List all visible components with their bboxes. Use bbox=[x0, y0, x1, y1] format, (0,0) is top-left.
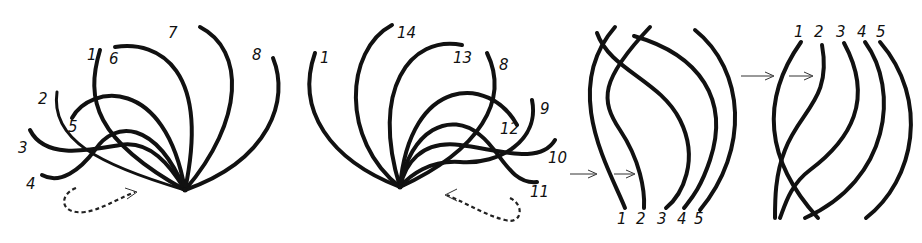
strands-a-panel: 1 2 3 4 5 bbox=[570, 27, 735, 228]
strands-a-stroke-1 bbox=[590, 27, 625, 208]
fan-left-label-6: 6 bbox=[109, 50, 119, 68]
fan-right-pivot-dot bbox=[398, 185, 403, 190]
fan-left-label-4: 4 bbox=[26, 175, 36, 193]
strands-b-label-5: 5 bbox=[876, 23, 886, 41]
strands-b-label-1: 1 bbox=[794, 23, 804, 41]
fan-right-label-8: 8 bbox=[499, 56, 509, 74]
fan-right-label-14: 14 bbox=[397, 24, 416, 42]
fan-left-label-2: 2 bbox=[38, 90, 48, 108]
fan-right-stroke-1 bbox=[309, 53, 400, 187]
fan-left-label-8: 8 bbox=[252, 46, 262, 64]
fan-right-label-12: 12 bbox=[500, 120, 519, 138]
fan-right-label-1: 1 bbox=[320, 49, 330, 67]
strands-a-stroke-4 bbox=[634, 36, 716, 208]
fan-right-label-11: 11 bbox=[530, 183, 549, 201]
fan-left-label-3: 3 bbox=[18, 139, 28, 157]
stroke-diagram: 1 2 3 4 5 6 7 8 1 14 13 8 9 12 10 11 bbox=[0, 0, 922, 243]
fan-right-label-9: 9 bbox=[540, 100, 550, 118]
fan-left-label-7: 7 bbox=[168, 24, 178, 42]
fan-right-label-13: 13 bbox=[453, 49, 472, 67]
fan-left-arrowhead-icon bbox=[125, 188, 137, 199]
strands-b-panel: 1 2 3 4 5 bbox=[741, 23, 911, 218]
strands-b-stroke-5 bbox=[866, 42, 911, 218]
fan-right-stroke-8 bbox=[400, 53, 495, 187]
strands-b-label-4: 4 bbox=[857, 23, 867, 41]
fan-left-label-1: 1 bbox=[87, 46, 97, 64]
strands-b-label-2: 2 bbox=[814, 23, 824, 41]
fan-left-pivot-dot bbox=[183, 188, 188, 193]
fan-right-direction-arrow bbox=[447, 195, 520, 221]
fan-left-label-5: 5 bbox=[68, 118, 78, 136]
strands-b-label-3: 3 bbox=[836, 23, 846, 41]
strands-a-label-5: 5 bbox=[694, 210, 704, 228]
fan-left-panel: 1 2 3 4 5 6 7 8 bbox=[18, 24, 279, 212]
strands-a-label-3: 3 bbox=[657, 210, 667, 228]
strands-b-stroke-4 bbox=[805, 42, 884, 218]
strands-a-label-4: 4 bbox=[677, 210, 687, 228]
fan-left-direction-arrow bbox=[64, 188, 135, 212]
fan-right-label-10: 10 bbox=[548, 149, 567, 167]
strands-a-label-1: 1 bbox=[617, 210, 627, 228]
fan-right-panel: 1 14 13 8 9 12 10 11 bbox=[309, 24, 567, 221]
strands-a-label-2: 2 bbox=[636, 210, 646, 228]
